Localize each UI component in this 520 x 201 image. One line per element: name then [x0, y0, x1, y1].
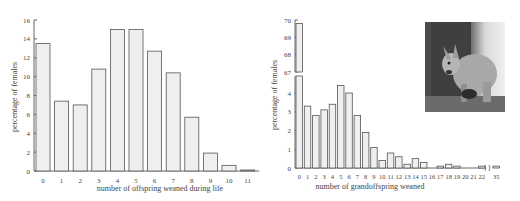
bar: [437, 166, 444, 168]
bar: [362, 132, 369, 168]
bar: [321, 110, 328, 168]
y-tick-label: 68: [284, 51, 292, 59]
y-tick-label: 70: [284, 17, 292, 25]
y-tick-label: 0: [288, 165, 292, 173]
y-axis-label: percentage of females: [10, 62, 19, 132]
bar: [73, 105, 87, 171]
y-tick-label: 3: [288, 108, 292, 116]
x-axis-break: [485, 165, 490, 171]
bar: [454, 166, 461, 168]
bar: [346, 93, 353, 168]
x-tick-label: 12: [396, 173, 403, 180]
x-tick-label: 8: [364, 173, 367, 180]
x-tick-label: 9: [372, 173, 375, 180]
y-tick-label: 1: [288, 146, 292, 154]
bar: [493, 166, 500, 168]
x-tick-label: 35: [493, 173, 500, 180]
kangaroo-image-icon: [425, 22, 505, 112]
bar: [36, 44, 50, 171]
x-tick-label: 0: [298, 173, 301, 180]
bar: [55, 101, 69, 171]
x-tick-label: 21: [470, 173, 477, 180]
bar: [404, 164, 411, 168]
x-tick-label: 18: [445, 173, 452, 180]
bar: [354, 116, 361, 169]
bar: [92, 69, 106, 171]
bar: [296, 23, 303, 72]
x-tick-label: 2: [314, 173, 317, 180]
x-tick-label: 22: [479, 173, 486, 180]
y-tick-label: 2: [288, 127, 292, 135]
kangaroo-photo: [425, 22, 505, 112]
x-tick-label: 19: [454, 173, 461, 180]
x-tick-label: 10: [379, 173, 386, 180]
bar: [296, 76, 303, 168]
y-tick-label: 12: [23, 54, 31, 62]
bar: [412, 159, 419, 168]
x-tick-label: 14: [412, 173, 419, 180]
bar: [371, 147, 378, 168]
y-tick-label: 16: [23, 17, 31, 25]
x-axis-label: number of grandoffspring weaned: [316, 182, 425, 191]
x-tick-label: 17: [437, 173, 444, 180]
y-tick-label: 14: [23, 35, 31, 43]
bar: [185, 117, 199, 171]
x-tick-label: 11: [244, 177, 251, 185]
x-tick-label: 16: [429, 173, 436, 180]
y-tick-label: 6: [27, 111, 31, 119]
x-tick-label: 15: [421, 173, 428, 180]
x-tick-label: 2: [78, 177, 82, 185]
bar: [166, 73, 180, 171]
bar: [338, 86, 345, 169]
bar: [445, 164, 452, 168]
bar: [203, 153, 217, 171]
x-tick-label: 1: [60, 177, 64, 185]
bar: [329, 104, 336, 168]
y-tick-label: 4: [27, 130, 31, 138]
bar: [421, 162, 428, 168]
bar: [222, 165, 236, 171]
x-tick-label: 7: [356, 173, 360, 180]
y-tick-label: 8: [27, 92, 31, 100]
y-tick-label: 10: [23, 73, 31, 81]
bar: [148, 51, 162, 171]
y-tick-label: 4: [288, 90, 292, 98]
offspring-histogram: 024681012141601234567891011number of off…: [0, 0, 260, 201]
x-tick-label: 13: [404, 173, 411, 180]
bar: [387, 153, 394, 168]
x-tick-label: 6: [347, 173, 351, 180]
x-tick-label: 4: [331, 173, 335, 180]
y-tick-label: 69: [284, 34, 292, 42]
x-tick-label: 1: [306, 173, 309, 180]
x-tick-label: 10: [226, 177, 234, 185]
y-tick-label: 0: [27, 168, 31, 176]
y-axis-label: percentage of females: [270, 60, 279, 130]
bar: [313, 116, 320, 169]
bar: [129, 29, 143, 171]
x-tick-label: 3: [323, 173, 326, 180]
bar: [110, 29, 124, 171]
offspring-histogram-plot: 024681012141601234567891011number of off…: [0, 0, 260, 201]
x-tick-label: 0: [41, 177, 45, 185]
y-tick-label: 2: [27, 149, 31, 157]
x-tick-label: 5: [339, 173, 342, 180]
bar: [479, 166, 486, 168]
x-axis-label: number of offspring weaned during life: [97, 184, 224, 193]
y-tick-label: 67: [284, 69, 292, 77]
x-tick-label: 11: [387, 173, 393, 180]
bar: [396, 157, 403, 168]
bar: [241, 170, 255, 171]
bar: [379, 161, 386, 169]
x-tick-label: 20: [462, 173, 469, 180]
bar: [304, 106, 311, 168]
